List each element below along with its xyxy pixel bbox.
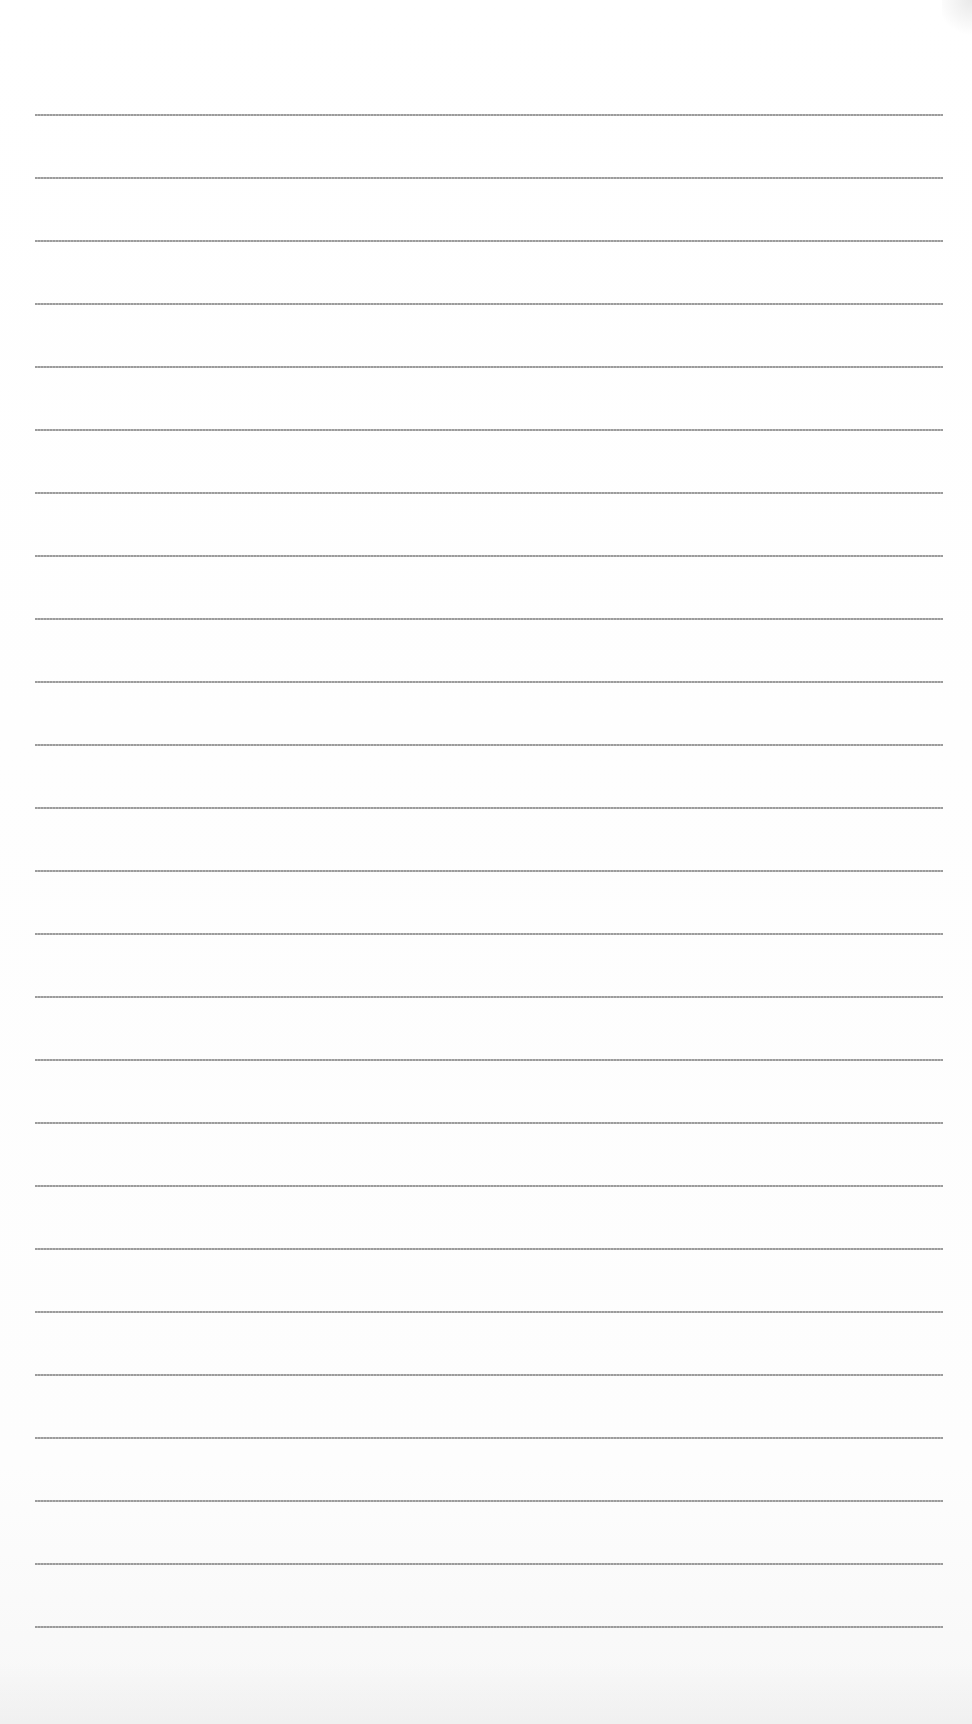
ruled-line (35, 240, 943, 242)
ruled-line (35, 177, 943, 179)
ruled-line (35, 114, 943, 116)
ruled-line (35, 681, 943, 683)
ruled-line (35, 1059, 943, 1061)
ruled-line (35, 870, 943, 872)
ruled-line (35, 1311, 943, 1313)
lined-paper-sheet (0, 0, 972, 1724)
ruled-line (35, 492, 943, 494)
ruled-line (35, 429, 943, 431)
ruled-line (35, 1122, 943, 1124)
ruled-line (35, 366, 943, 368)
ruled-line (35, 933, 943, 935)
ruled-line (35, 1626, 943, 1628)
ruled-line (35, 1437, 943, 1439)
ruled-line (35, 303, 943, 305)
ruled-line (35, 996, 943, 998)
ruled-line (35, 1500, 943, 1502)
ruled-line (35, 1248, 943, 1250)
page-corner-shadow (942, 0, 972, 40)
ruled-line (35, 1563, 943, 1565)
bottom-edge-shadow (0, 1664, 972, 1724)
ruled-line (35, 1185, 943, 1187)
ruled-line (35, 744, 943, 746)
ruled-line (35, 555, 943, 557)
ruled-line (35, 1374, 943, 1376)
ruled-line (35, 618, 943, 620)
ruled-line (35, 807, 943, 809)
